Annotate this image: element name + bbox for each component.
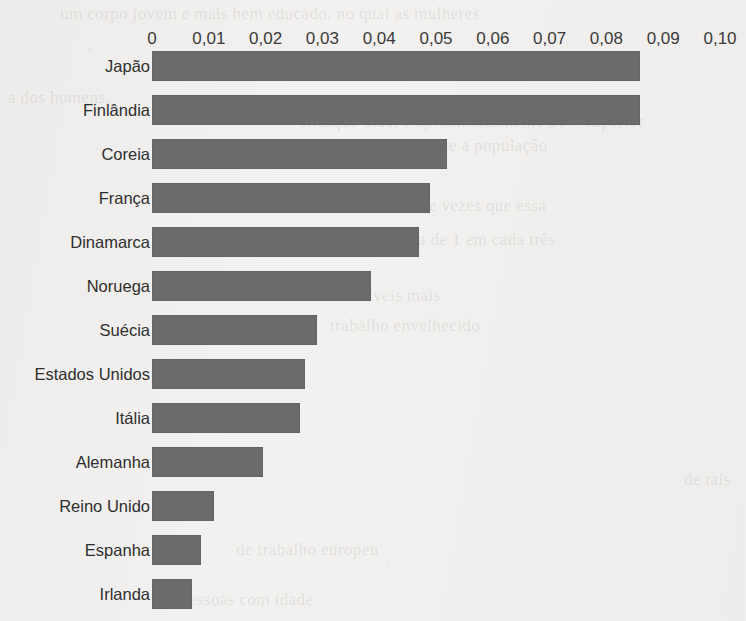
category-label: Espanha <box>85 535 150 565</box>
x-axis-tick-labels: 00,010,020,030,040,050,060,070,080,090,1… <box>0 29 746 49</box>
x-axis-tick-label: 0,02 <box>249 29 282 49</box>
chart-row: Coreia <box>0 139 746 183</box>
x-axis-tick-label: 0,08 <box>590 29 623 49</box>
category-label: Estados Unidos <box>34 359 150 389</box>
chart-row: Noruega <box>0 271 746 315</box>
category-label: Noruega <box>87 271 150 301</box>
x-axis-tick-label: 0 <box>147 29 156 49</box>
chart-row: Alemanha <box>0 447 746 491</box>
category-label: Finlândia <box>83 95 150 125</box>
bar <box>152 51 640 81</box>
bar <box>152 95 640 125</box>
chart-row: Suécia <box>0 315 746 359</box>
category-label: Coreia <box>101 139 150 169</box>
chart-row: França <box>0 183 746 227</box>
category-label: Irlanda <box>100 579 150 609</box>
category-label: Suécia <box>100 315 150 345</box>
bar <box>152 227 419 257</box>
bar <box>152 403 300 433</box>
category-label: França <box>99 183 150 213</box>
chart-row: Japão <box>0 51 746 95</box>
chart-row: Finlândia <box>0 95 746 139</box>
category-label: Alemanha <box>76 447 150 477</box>
category-label: Dinamarca <box>70 227 150 257</box>
bar <box>152 183 430 213</box>
x-axis-tick-label: 0,07 <box>533 29 566 49</box>
bar <box>152 359 305 389</box>
x-axis-tick-label: 0,01 <box>192 29 225 49</box>
horizontal-bar-chart: 00,010,020,030,040,050,060,070,080,090,1… <box>0 0 746 621</box>
x-axis-tick-label: 0,04 <box>363 29 396 49</box>
chart-row: Irlanda <box>0 579 746 621</box>
x-axis-tick-label: 0,06 <box>476 29 509 49</box>
x-axis-tick-label: 0,03 <box>306 29 339 49</box>
chart-row: Dinamarca <box>0 227 746 271</box>
category-label: Japão <box>105 51 150 81</box>
bar <box>152 139 447 169</box>
bar <box>152 579 192 609</box>
x-axis-tick-label: 0,09 <box>647 29 680 49</box>
category-label: Reino Unido <box>59 491 150 521</box>
bar <box>152 491 214 521</box>
x-axis-tick-label: 0,10 <box>703 29 736 49</box>
chart-row: Espanha <box>0 535 746 579</box>
bar <box>152 447 263 477</box>
bar <box>152 315 317 345</box>
category-label: Itália <box>115 403 150 433</box>
bar <box>152 271 371 301</box>
chart-plot-area: JapãoFinlândiaCoreiaFrançaDinamarcaNorue… <box>0 51 746 621</box>
chart-row: Reino Unido <box>0 491 746 535</box>
chart-row: Itália <box>0 403 746 447</box>
x-axis-tick-label: 0,05 <box>419 29 452 49</box>
bar <box>152 535 201 565</box>
chart-row: Estados Unidos <box>0 359 746 403</box>
